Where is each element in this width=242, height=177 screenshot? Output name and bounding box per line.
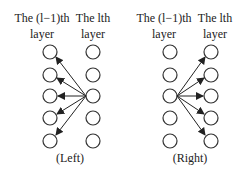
- left-caption: (Left): [40, 150, 100, 166]
- right-prev-layer-nodes: [163, 45, 177, 148]
- right-curr-layer-nodes: [204, 45, 218, 148]
- left-prev-layer-nodes: [43, 45, 57, 148]
- left-arrows: [56, 57, 86, 135]
- right-caption: (Right): [160, 150, 220, 166]
- left-curr-layer-nodes: [86, 45, 100, 148]
- right-arrows: [177, 57, 205, 135]
